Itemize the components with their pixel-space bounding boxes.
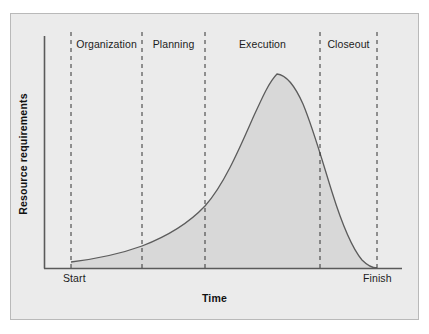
x-axis-start-label: Start bbox=[63, 272, 86, 284]
x-axis-finish-label: Finish bbox=[363, 272, 392, 284]
phase-label-execution: Execution bbox=[205, 38, 320, 50]
figure-container: Organization Planning Execution Closeout… bbox=[0, 0, 429, 334]
phase-label-planning: Planning bbox=[142, 38, 205, 50]
y-axis-title: Resource requirements bbox=[17, 69, 29, 239]
phase-label-organization: Organization bbox=[71, 38, 142, 50]
x-axis-title: Time bbox=[0, 292, 429, 304]
phase-label-closeout: Closeout bbox=[320, 38, 377, 50]
resource-curve-area bbox=[71, 74, 377, 268]
